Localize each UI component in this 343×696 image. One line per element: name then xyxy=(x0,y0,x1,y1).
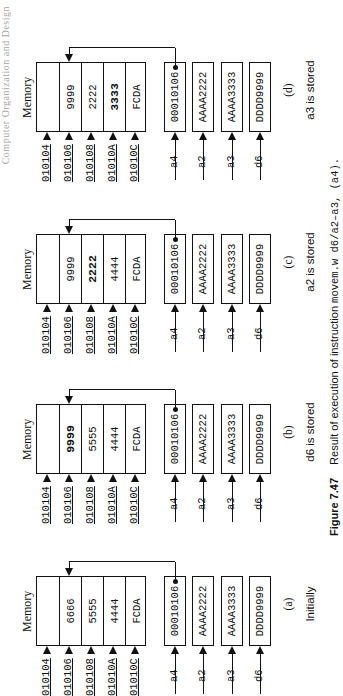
register-arrow-line xyxy=(232,140,233,180)
memory-cell: 9999 xyxy=(59,235,81,303)
register-arrow-line xyxy=(203,482,204,522)
pointer-line xyxy=(69,389,175,390)
arrow-right-icon xyxy=(43,474,51,482)
memory-cell: FCDA xyxy=(125,235,147,303)
address-label: 010106 xyxy=(62,486,74,524)
arrow-right-icon xyxy=(171,474,179,482)
arrow-right-icon xyxy=(87,474,95,482)
address-label: 010104 xyxy=(40,144,52,182)
memory-title: Memory xyxy=(20,249,35,290)
arrow-right-icon xyxy=(109,646,117,654)
memory-block: 999922223333FCDA xyxy=(36,62,146,132)
address-label: 01010A xyxy=(106,658,118,696)
register-label-d6: d6 xyxy=(253,155,265,168)
register-label-a3: a3 xyxy=(225,327,237,340)
arrow-right-icon xyxy=(199,474,207,482)
address-label: 010104 xyxy=(40,486,52,524)
register-arrow-line xyxy=(175,312,176,352)
address-label: 01010C xyxy=(128,144,140,182)
register-box-a2: AAAA2222 xyxy=(192,234,214,304)
address-label: 010108 xyxy=(84,316,96,354)
register-label-a2: a2 xyxy=(196,497,208,510)
register-arrow-line xyxy=(260,140,261,180)
arrow-right-icon xyxy=(228,304,236,312)
figure-caption-text: Result of execution of instruction xyxy=(328,306,340,465)
arrow-right-icon xyxy=(228,646,236,654)
arrow-right-icon xyxy=(199,304,207,312)
panel-a: 01010401010601010801010A01010C6666555544… xyxy=(0,520,343,694)
arrow-right-icon xyxy=(131,474,139,482)
panel-caption: d6 is stored xyxy=(304,372,316,492)
memory-title: Memory xyxy=(20,419,35,460)
register-label-a3: a3 xyxy=(225,669,237,682)
memory-cell: 2222 xyxy=(81,63,103,131)
register-arrow-line xyxy=(175,482,176,522)
register-arrow-line xyxy=(260,482,261,522)
address-label: 01010C xyxy=(128,486,140,524)
register-box-d6: DDDD9999 xyxy=(249,576,271,646)
register-label-a4: a4 xyxy=(168,155,180,168)
panel-b: 01010401010601010801010A01010C9999555544… xyxy=(0,348,343,522)
address-label: 010108 xyxy=(84,144,96,182)
memory-block: 999922224444FCDA xyxy=(36,234,146,304)
memory-cell xyxy=(37,63,59,131)
pointer-line xyxy=(69,47,175,48)
arrow-right-icon xyxy=(228,474,236,482)
arrow-right-icon xyxy=(256,474,264,482)
arrow-right-icon xyxy=(109,132,117,140)
address-label: 010108 xyxy=(84,486,96,524)
panel-caption: Initially xyxy=(304,544,316,664)
arrow-right-icon xyxy=(109,474,117,482)
register-label-d6: d6 xyxy=(253,327,265,340)
register-arrow-line xyxy=(203,140,204,180)
register-label-a3: a3 xyxy=(225,155,237,168)
arrow-right-icon xyxy=(65,132,73,140)
register-label-a2: a2 xyxy=(196,669,208,682)
address-label: 01010A xyxy=(106,486,118,524)
arrow-right-icon xyxy=(87,646,95,654)
arrow-right-icon xyxy=(256,646,264,654)
panel-caption: a2 is stored xyxy=(304,202,316,322)
address-label: 010104 xyxy=(40,658,52,696)
arrow-right-icon xyxy=(87,132,95,140)
register-arrow-line xyxy=(232,482,233,522)
register-box-a3: AAAA3333 xyxy=(221,234,243,304)
panel-c: 01010401010601010801010A01010C9999222244… xyxy=(0,178,343,352)
address-label: 010106 xyxy=(62,316,74,354)
panel-d: 01010401010601010801010A01010C9999222233… xyxy=(0,6,343,180)
memory-cell xyxy=(37,235,59,303)
register-box-a3: AAAA3333 xyxy=(221,62,243,132)
register-arrow-line xyxy=(175,140,176,180)
register-box-a4: 00010106 xyxy=(164,576,186,646)
address-label: 01010A xyxy=(106,144,118,182)
pointer-arrow-icon xyxy=(65,396,73,404)
register-box-d6: DDDD9999 xyxy=(249,62,271,132)
register-box-d6: DDDD9999 xyxy=(249,234,271,304)
memory-cell: 3333 xyxy=(103,63,125,131)
register-arrow-line xyxy=(203,312,204,352)
arrow-right-icon xyxy=(109,304,117,312)
memory-cell: 2222 xyxy=(81,235,103,303)
address-label: 01010C xyxy=(128,658,140,696)
pointer-line xyxy=(175,220,176,240)
arrow-right-icon xyxy=(131,304,139,312)
register-arrow-line xyxy=(203,654,204,694)
register-box-a4: 00010106 xyxy=(164,62,186,132)
register-label-a2: a2 xyxy=(196,155,208,168)
register-arrow-line xyxy=(232,654,233,694)
pointer-arrow-icon xyxy=(65,568,73,576)
register-box-a4: 00010106 xyxy=(164,234,186,304)
register-arrow-line xyxy=(260,654,261,694)
arrow-right-icon xyxy=(43,304,51,312)
memory-cell: 5555 xyxy=(81,405,103,473)
memory-cell: 6666 xyxy=(59,577,81,645)
register-label-a4: a4 xyxy=(168,497,180,510)
arrow-right-icon xyxy=(65,474,73,482)
address-label: 010106 xyxy=(62,144,74,182)
address-label: 01010A xyxy=(106,316,118,354)
address-label: 010106 xyxy=(62,658,74,696)
arrow-right-icon xyxy=(228,132,236,140)
pointer-line xyxy=(69,561,175,562)
register-label-a4: a4 xyxy=(168,669,180,682)
arrow-right-icon xyxy=(199,646,207,654)
